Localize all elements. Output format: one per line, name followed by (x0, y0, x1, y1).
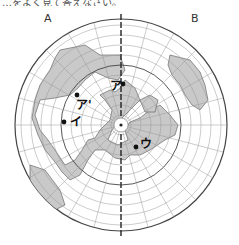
point-label-a-prime: ア' (76, 99, 92, 111)
polar-map (0, 0, 239, 245)
point-label-u: ウ (140, 138, 152, 150)
point-label-i: イ (70, 116, 82, 128)
point-label-a: ア (110, 80, 122, 92)
